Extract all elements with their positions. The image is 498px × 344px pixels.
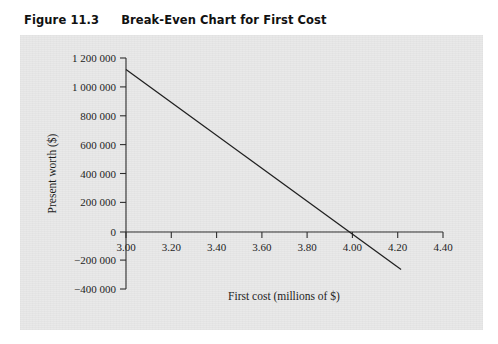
chart-panel: 1 200 000 1 000 000 800 000 600 000 400 … [20,35,483,330]
x-tick-label: 4.20 [388,241,408,253]
x-axis-ticks [126,232,443,238]
x-tick-label: 4.40 [433,241,453,253]
y-tick-label: 200 000 [80,196,116,208]
y-tick-label: −400 000 [74,283,116,295]
y-tick-label: −200 000 [74,254,116,266]
figure-caption: Break-Even Chart for First Cost [121,13,327,27]
y-axis-ticks [120,58,126,289]
break-even-line-chart: 1 200 000 1 000 000 800 000 600 000 400 … [20,35,483,330]
x-tick-label: 3.80 [297,241,317,253]
y-tick-label: 1 200 000 [72,52,117,64]
y-axis-tick-labels: 1 200 000 1 000 000 800 000 600 000 400 … [72,52,117,295]
y-tick-label: 800 000 [80,110,116,122]
y-axis-title: Present worth ($) [46,133,59,213]
x-axis-title: First cost (millions of $) [228,290,340,303]
figure-title: Figure 11.3Break-Even Chart for First Co… [24,13,327,27]
y-tick-label: 0 [111,226,117,238]
x-axis-tick-labels: 3.00 3.20 3.40 3.60 3.80 4.00 4.20 4.40 [116,241,453,253]
x-tick-label: 3.00 [116,241,136,253]
x-tick-label: 3.20 [162,241,182,253]
x-tick-label: 4.00 [343,241,363,253]
y-tick-label: 600 000 [80,139,116,151]
x-tick-label: 3.60 [252,241,272,253]
present-worth-data-line [126,70,401,270]
figure-number: Figure 11.3 [24,13,99,27]
y-tick-label: 1 000 000 [72,81,117,93]
y-tick-label: 400 000 [80,168,116,180]
x-tick-label: 3.40 [207,241,227,253]
